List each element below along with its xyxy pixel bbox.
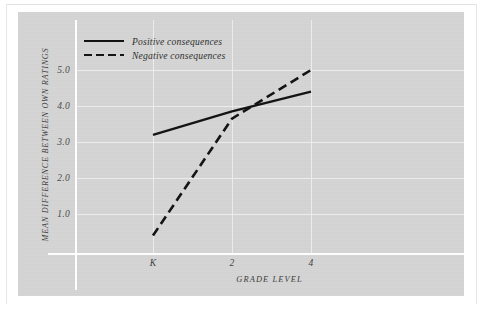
page-canvas: 5.0 4.0 3.0 2.0 1.0 K 2 4 MEAN DIFFERENC… [0, 0, 483, 314]
series-line-negative [153, 70, 311, 236]
plot-lines [18, 12, 464, 296]
chart-panel: 5.0 4.0 3.0 2.0 1.0 K 2 4 MEAN DIFFERENC… [18, 12, 464, 296]
page-rule-right [476, 4, 477, 304]
series-line-positive [153, 92, 311, 135]
page-rule-left [6, 4, 7, 304]
page-rule-top [6, 4, 477, 5]
